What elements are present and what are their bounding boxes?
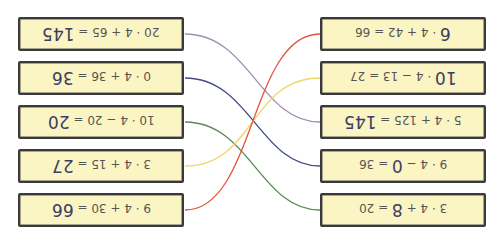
- equation-prefix: 20 · 4 + 65 =: [75, 25, 160, 39]
- equation-suffix: · 4 − 13 = 27: [350, 69, 435, 83]
- equation: 9 · 4 − 0 = 36: [359, 156, 447, 176]
- handwritten-answer: 10: [435, 68, 457, 88]
- equation-prefix: 9 · 4 −: [403, 157, 447, 171]
- equation-prefix: 5 · 4 + 125 =: [377, 113, 462, 127]
- equation: 3 · 4 + 8 = 20: [359, 200, 447, 220]
- right-equation-box-1[interactable]: 6 · 4 + 42 = 66: [320, 17, 486, 51]
- equation-suffix: = 20: [359, 201, 392, 215]
- equation: 10 · 4 − 20 = 20: [48, 112, 155, 132]
- equation: 0 · 4 + 36 = 36: [52, 68, 151, 88]
- right-equation-box-5[interactable]: 3 · 4 + 8 = 20: [320, 193, 486, 227]
- left-equation-box-3[interactable]: 10 · 4 − 20 = 20: [18, 105, 184, 139]
- line-left1-right3: [185, 34, 320, 122]
- handwritten-answer: 36: [52, 68, 74, 88]
- matching-exercise: 20 · 4 + 65 = 145 0 · 4 + 36 = 36 10 · 4…: [0, 0, 501, 238]
- equation-prefix: 3 · 4 +: [403, 201, 447, 215]
- equation-prefix: 3 · 4 + 15 =: [73, 157, 150, 171]
- line-left5-right1: [185, 34, 320, 210]
- equation-prefix: 0 · 4 + 36 =: [73, 69, 150, 83]
- equation-prefix: 9 · 4 + 30 =: [73, 201, 150, 215]
- right-equation-box-3[interactable]: 5 · 4 + 125 = 145: [320, 105, 486, 139]
- left-equation-box-4[interactable]: 3 · 4 + 15 = 27: [18, 149, 184, 183]
- equation: 10 · 4 − 13 = 27: [350, 68, 457, 88]
- equation-suffix: = 36: [359, 157, 392, 171]
- equation-prefix: 10 · 4 − 20 =: [69, 113, 154, 127]
- equation: 5 · 4 + 125 = 145: [344, 112, 461, 132]
- handwritten-answer: 0: [392, 156, 403, 176]
- handwritten-answer: 145: [344, 112, 376, 132]
- handwritten-answer: 66: [52, 200, 74, 220]
- equation: 20 · 4 + 65 = 145: [42, 24, 159, 44]
- line-left3-right5: [185, 122, 320, 210]
- equation: 6 · 4 + 42 = 66: [355, 24, 451, 44]
- right-equation-box-4[interactable]: 9 · 4 − 0 = 36: [320, 149, 486, 183]
- handwritten-answer: 20: [48, 112, 70, 132]
- handwritten-answer: 27: [52, 156, 74, 176]
- left-equation-box-5[interactable]: 9 · 4 + 30 = 66: [18, 193, 184, 227]
- handwritten-answer: 6: [440, 24, 451, 44]
- left-equation-box-2[interactable]: 0 · 4 + 36 = 36: [18, 61, 184, 95]
- right-equation-box-2[interactable]: 10 · 4 − 13 = 27: [320, 61, 486, 95]
- left-equation-box-1[interactable]: 20 · 4 + 65 = 145: [18, 17, 184, 51]
- equation: 9 · 4 + 30 = 66: [52, 200, 151, 220]
- handwritten-answer: 145: [42, 24, 74, 44]
- equation-suffix: · 4 + 42 = 66: [355, 25, 440, 39]
- equation: 3 · 4 + 15 = 27: [52, 156, 151, 176]
- handwritten-answer: 8: [392, 200, 403, 220]
